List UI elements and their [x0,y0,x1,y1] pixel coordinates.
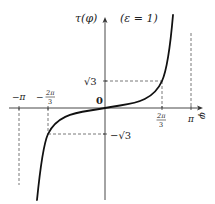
x-tick-2pi-over-3: 2π 3 [156,112,166,129]
x-tick-pi: π [187,114,195,124]
svg-text:2π: 2π [45,89,55,97]
y-axis-label: τ(φ) [75,12,97,25]
x-tick-neg-2pi-over-3: − 2π 3 [36,89,55,106]
svg-text:2π: 2π [156,112,166,120]
y-tick-sqrt3: √3 [84,76,97,87]
parameter-note: (ε = 1) [120,12,158,25]
origin-label: 0 [96,95,103,106]
x-axis-label: φ [198,112,209,119]
y-tick-neg-sqrt3: −√3 [110,130,131,141]
svg-text:3: 3 [159,121,163,129]
x-tick-neg-pi: −π [12,92,27,102]
axes [9,20,200,200]
tau-phi-diagram: τ(φ) (ε = 1) φ 0 −π − 2π 3 2π 3 π √3 −√3 [0,0,215,204]
svg-text:3: 3 [48,98,52,106]
svg-text:−: − [36,92,44,102]
